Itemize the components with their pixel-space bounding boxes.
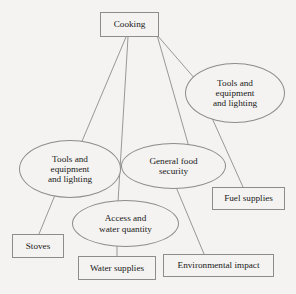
diagram-canvas: CookingTools and equipment and lightingT… bbox=[0, 0, 296, 294]
node-fuel[interactable]: Fuel supplies bbox=[212, 187, 285, 210]
edge-cooking-to-tools_right bbox=[157, 35, 196, 80]
node-access_water[interactable]: Access and water quantity bbox=[72, 200, 179, 247]
edge-cooking-to-tools_left bbox=[80, 37, 126, 146]
node-tools_right[interactable]: Tools and equipment and lighting bbox=[185, 63, 285, 123]
edge-cooking-to-access_water bbox=[118, 37, 128, 202]
node-food_sec[interactable]: General food security bbox=[121, 143, 226, 189]
edge-tools_left-to-stoves bbox=[39, 195, 55, 234]
node-water_sup[interactable]: Water supplies bbox=[78, 256, 156, 280]
node-env_impact[interactable]: Environmental impact bbox=[163, 254, 274, 277]
node-tools_left[interactable]: Tools and equipment and lighting bbox=[19, 140, 121, 198]
edge-food_sec-to-env_impact bbox=[176, 187, 204, 254]
node-stoves[interactable]: Stoves bbox=[12, 234, 64, 258]
node-cooking[interactable]: Cooking bbox=[100, 12, 159, 37]
